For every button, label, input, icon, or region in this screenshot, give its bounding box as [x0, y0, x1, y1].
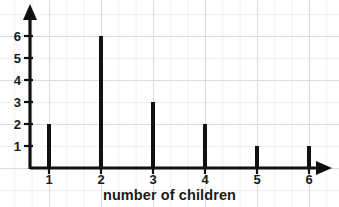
y-tick-label-2: 2	[14, 118, 21, 131]
y-axis-arrow-icon	[23, 4, 37, 20]
x-tick-label-5: 5	[253, 173, 260, 186]
x-axis-title: number of children	[0, 187, 339, 203]
x-tick-label-4: 4	[201, 173, 208, 186]
y-tick-label-4: 4	[14, 74, 21, 87]
x-tick-label-1: 1	[45, 173, 52, 186]
x-tick-label-3: 3	[149, 173, 156, 186]
x-tick-label-2: 2	[97, 173, 104, 186]
x-tick-label-6: 6	[305, 173, 312, 186]
y-tick-label-3: 3	[14, 96, 21, 109]
chart-figure: 1 2 3 4 5 6 1 2 3 4 5 6 number of childr…	[0, 0, 339, 207]
y-tick-label-6: 6	[14, 30, 21, 43]
y-tick-label-1: 1	[14, 140, 21, 153]
x-axis-arrow-icon	[316, 161, 332, 175]
y-tick-label-5: 5	[14, 52, 21, 65]
